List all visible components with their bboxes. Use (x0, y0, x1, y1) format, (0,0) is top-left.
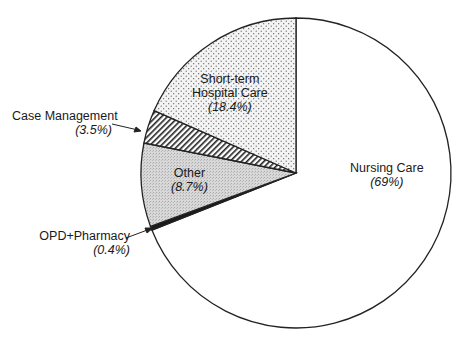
slice-name: OPD+Pharmacy (24, 229, 130, 243)
slice-pct: (8.7%) (171, 180, 208, 194)
label-nursing-care: Nursing Care (69%) (350, 161, 424, 189)
label-case-management: Case Management (3.5%) (12, 109, 112, 137)
slice-pct: (0.4%) (24, 243, 130, 257)
slice-name: Other (171, 166, 208, 180)
slice-name: Hospital Care (192, 86, 268, 100)
label-other: Other (8.7%) (171, 166, 208, 194)
slice-pct: (18.4%) (192, 100, 268, 114)
slice-pct: (3.5%) (12, 123, 112, 137)
slice-pct: (69%) (350, 175, 424, 189)
label-opd-pharmacy: OPD+Pharmacy (0.4%) (24, 229, 130, 257)
slice-name: Short-term (192, 72, 268, 86)
slice-name: Case Management (12, 109, 112, 123)
slice-name: Nursing Care (350, 161, 424, 175)
label-short-term-hospital-care: Short-term Hospital Care (18.4%) (192, 72, 268, 114)
